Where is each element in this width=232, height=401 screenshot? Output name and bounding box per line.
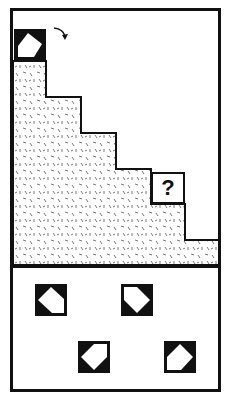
option-3[interactable] [78,341,110,373]
option-4[interactable] [164,341,196,373]
option-1[interactable] [35,284,67,316]
option-2[interactable] [121,284,153,316]
options-panel [0,0,232,401]
